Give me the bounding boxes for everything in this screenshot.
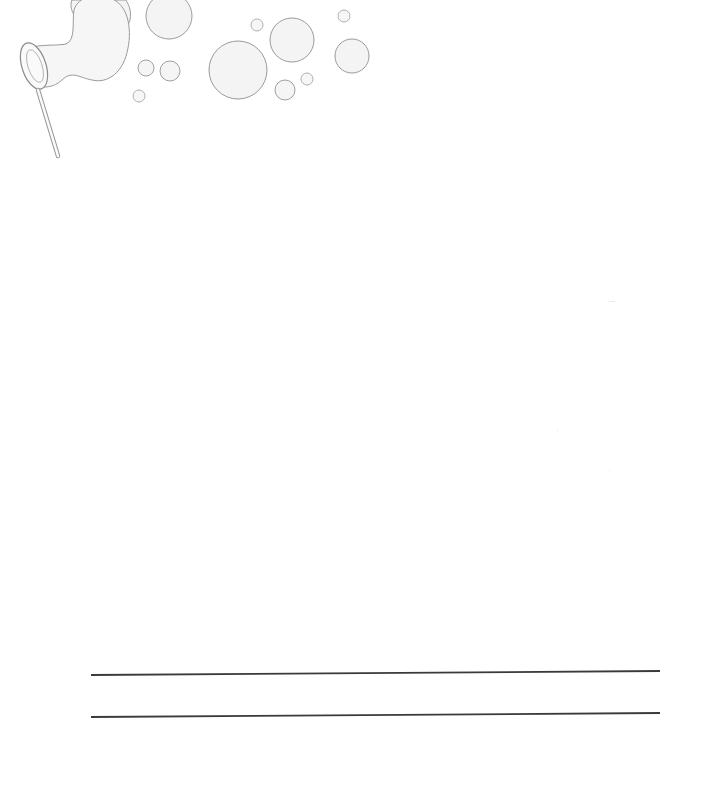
printable-page: ·~ · · bbox=[0, 0, 715, 790]
writing-line-2 bbox=[91, 713, 660, 717]
writing-line-1 bbox=[91, 671, 660, 675]
writing-lines bbox=[0, 0, 715, 790]
